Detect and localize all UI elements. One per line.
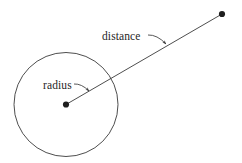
radius-label: radius: [43, 79, 72, 91]
diagram-canvas: radius distance: [0, 0, 242, 163]
distance-label: distance: [102, 30, 140, 42]
distance-leader-arrow: [148, 35, 166, 44]
circle-center-point: [63, 101, 69, 107]
circle-distance-diagram: radius distance: [0, 0, 242, 163]
radius-leader-arrow: [74, 84, 89, 91]
distance-line: [66, 14, 222, 105]
outer-endpoint-point: [219, 11, 225, 17]
